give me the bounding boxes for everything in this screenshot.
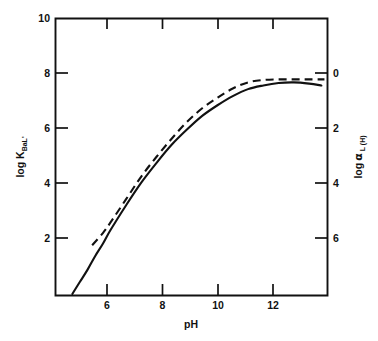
figure-container: 10 8 6 4 2 0 2 4 6 <box>0 0 378 341</box>
right-axis-title-greek: α <box>352 153 365 161</box>
series-dashed-curve <box>92 79 324 245</box>
left-tick-label-8: 8 <box>44 67 50 79</box>
x-axis-labels: 6 8 10 12 <box>104 299 279 311</box>
x-tick-label-12: 12 <box>267 299 279 311</box>
left-axis-labels: 10 8 6 4 2 <box>38 12 50 244</box>
left-axis-ticks <box>56 73 69 238</box>
x-tick-label-6: 6 <box>104 299 110 311</box>
right-axis-labels: 0 2 4 6 <box>333 67 339 244</box>
svg-text:logαL (H): logαL (H) <box>352 135 367 178</box>
x-axis-ticks <box>107 284 273 296</box>
chart-plot: 10 8 6 4 2 0 2 4 6 <box>0 0 378 341</box>
right-tick-label-6: 6 <box>333 232 339 244</box>
right-tick-label-2: 2 <box>333 122 339 134</box>
right-axis-title-main: log <box>352 163 364 179</box>
left-axis-title: log KBaL' <box>14 136 28 177</box>
left-tick-label-10: 10 <box>38 12 50 24</box>
svg-text:log KBaL': log KBaL' <box>14 136 28 177</box>
left-tick-label-2: 2 <box>44 232 50 244</box>
series-solid-curve <box>72 82 321 294</box>
right-axis-title-sub: L (H) <box>359 135 367 151</box>
x-axis-top-ticks <box>107 19 273 30</box>
left-tick-label-4: 4 <box>44 177 50 189</box>
right-axis-ticks <box>315 73 328 238</box>
right-tick-label-4: 4 <box>333 177 339 189</box>
left-axis-title-sub: BaL' <box>21 136 28 151</box>
x-tick-label-10: 10 <box>212 299 224 311</box>
right-tick-label-0: 0 <box>333 67 339 79</box>
right-axis-title: logαL (H) <box>352 135 367 178</box>
left-axis-title-main: log K <box>14 151 26 178</box>
x-axis-title: pH <box>184 318 198 330</box>
x-tick-label-8: 8 <box>160 299 166 311</box>
left-tick-label-6: 6 <box>44 122 50 134</box>
